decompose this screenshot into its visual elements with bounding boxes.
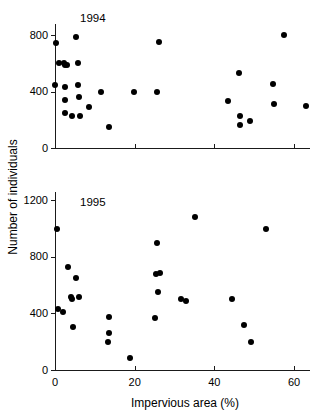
y-tick — [51, 257, 55, 258]
data-point — [76, 294, 82, 300]
data-point — [106, 314, 112, 320]
data-point — [248, 339, 254, 345]
data-point — [86, 104, 92, 110]
data-point — [183, 298, 189, 304]
y-tick-label: 1200 — [8, 195, 48, 206]
x-tick — [135, 144, 136, 148]
data-point — [127, 355, 133, 361]
data-point — [75, 82, 81, 88]
data-point — [225, 98, 231, 104]
x-tick-label: 40 — [194, 377, 234, 388]
data-point — [237, 113, 243, 119]
data-point — [236, 70, 242, 76]
data-point — [70, 324, 76, 330]
panel-1995: 1995 040080012000204060 — [0, 175, 322, 390]
data-point — [154, 240, 160, 246]
data-point — [105, 339, 111, 345]
data-point — [155, 289, 161, 295]
data-point — [247, 118, 253, 124]
y-tick-label: 0 — [8, 365, 48, 376]
data-point — [73, 34, 79, 40]
x-tick — [135, 366, 136, 370]
y-tick-label: 800 — [8, 30, 48, 41]
data-point — [62, 84, 68, 90]
data-point — [237, 122, 243, 128]
data-point — [157, 270, 163, 276]
y-tick — [51, 370, 55, 371]
data-point — [131, 89, 137, 95]
data-point — [106, 124, 112, 130]
scatter-figure: Number of individuals Impervious area (%… — [0, 0, 322, 418]
x-axis-line — [55, 148, 310, 149]
x-tick-label: 60 — [274, 377, 314, 388]
y-tick — [51, 92, 55, 93]
data-point — [270, 81, 276, 87]
data-point — [98, 89, 104, 95]
data-point — [106, 330, 112, 336]
data-point — [62, 97, 68, 103]
data-point — [241, 322, 247, 328]
plot-area-1995: 040080012000204060 — [0, 175, 322, 390]
x-axis-title: Impervious area (%) — [55, 396, 315, 410]
x-tick — [294, 366, 295, 370]
y-tick-label: 400 — [8, 86, 48, 97]
data-point — [69, 113, 75, 119]
y-tick-label: 800 — [8, 251, 48, 262]
y-tick-label: 0 — [8, 143, 48, 154]
y-tick — [51, 200, 55, 201]
data-point — [54, 226, 60, 232]
data-point — [154, 89, 160, 95]
x-tick-label: 20 — [115, 377, 155, 388]
x-tick — [294, 144, 295, 148]
data-point — [73, 275, 79, 281]
x-tick-label: 0 — [35, 377, 75, 388]
y-tick — [51, 148, 55, 149]
data-point — [263, 226, 269, 232]
data-point — [281, 32, 287, 38]
data-point — [76, 94, 82, 100]
data-point — [229, 296, 235, 302]
data-point — [152, 315, 158, 321]
plot-area-1994: 0400800 — [0, 0, 322, 175]
data-point — [271, 101, 277, 107]
y-tick — [51, 313, 55, 314]
panel-1994: 1994 0400800 — [0, 0, 322, 175]
y-tick — [51, 35, 55, 36]
data-point — [60, 309, 66, 315]
x-tick — [214, 366, 215, 370]
data-point — [303, 103, 309, 109]
data-point — [64, 62, 70, 68]
data-point — [75, 60, 81, 66]
data-point — [52, 82, 58, 88]
data-point — [69, 296, 75, 302]
y-tick-label: 400 — [8, 308, 48, 319]
data-point — [156, 39, 162, 45]
x-axis-line — [55, 370, 310, 371]
data-point — [77, 113, 83, 119]
y-axis-line — [55, 192, 56, 370]
data-point — [65, 264, 71, 270]
data-point — [53, 40, 59, 46]
data-point — [62, 110, 68, 116]
x-tick — [214, 144, 215, 148]
data-point — [192, 214, 198, 220]
